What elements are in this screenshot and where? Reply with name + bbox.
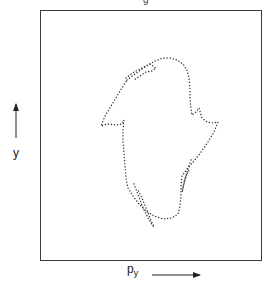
lower-filament-curve (134, 184, 154, 227)
dotted-curves (101, 58, 218, 227)
x-axis-label-main: p (127, 262, 134, 276)
y-axis-label: y (13, 146, 19, 160)
x-axis-label-subscript: y (134, 268, 139, 278)
outer-contour-curve (101, 58, 218, 219)
upper-filament-curve (126, 64, 156, 80)
phase-space-plot (0, 0, 273, 287)
inner-right-filament-curve (182, 160, 191, 192)
x-axis-label: py (127, 262, 138, 278)
